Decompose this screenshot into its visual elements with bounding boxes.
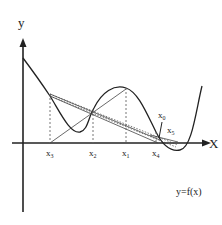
function-label: y=f(x) xyxy=(176,186,202,198)
x-axis-label: X xyxy=(209,136,219,151)
y-axis-arrow-icon xyxy=(20,38,27,47)
function-curve xyxy=(23,58,202,150)
x0-pointer xyxy=(159,122,162,138)
y-axis-label: y xyxy=(18,15,25,30)
iteration-diagram: y X x3 x2 x1 x4 x0 x5 y=f(x) xyxy=(0,0,222,225)
secant-line-4 xyxy=(50,96,176,147)
secant-line-1 xyxy=(50,94,160,140)
label-x2: x2 xyxy=(89,148,97,159)
label-x3: x3 xyxy=(46,148,54,159)
label-x5: x5 xyxy=(167,125,175,136)
label-x4: x4 xyxy=(152,148,160,159)
label-x1: x1 xyxy=(122,148,130,159)
label-x0: x0 xyxy=(158,110,166,121)
